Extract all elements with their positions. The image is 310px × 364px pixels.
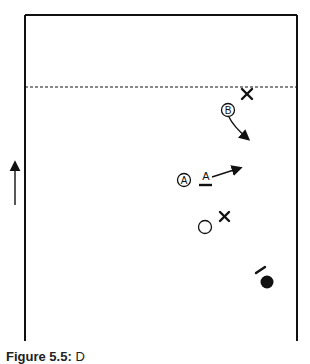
player-b-marker: B: [222, 104, 235, 117]
player-b-movement-arrow: [229, 117, 248, 139]
field-outline: [25, 15, 297, 341]
player-b-label: B: [225, 105, 232, 116]
position-a-marker: A: [199, 170, 212, 185]
position-a-label: A: [202, 170, 210, 182]
defender-x-top-icon: [242, 89, 252, 99]
player-a-movement-arrow: [212, 168, 240, 177]
caption-label: Figure 5.5:: [6, 349, 72, 364]
caption-text: D: [75, 349, 84, 364]
defender-x-mid-icon: [220, 212, 229, 221]
open-circle-player-icon: [199, 221, 212, 234]
player-a-label: A: [181, 175, 188, 186]
figure-caption: Figure 5.5: D: [6, 349, 85, 364]
ball-marker-slash: [256, 267, 265, 273]
player-a-marker: A: [178, 174, 191, 187]
ball-icon: [261, 276, 274, 289]
